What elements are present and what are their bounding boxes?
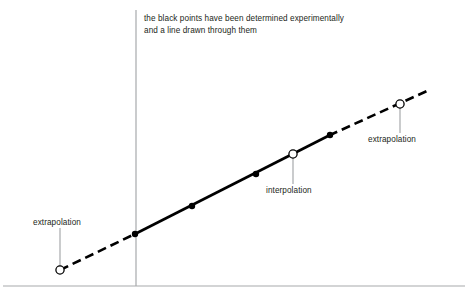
data-point-open-extrapolation-left xyxy=(56,266,64,274)
data-point-filled xyxy=(253,171,259,177)
trend-line-dashed-right xyxy=(329,91,427,136)
axes-group xyxy=(3,10,465,286)
data-point-filled xyxy=(132,231,138,237)
figure-caption: the black points have been determined ex… xyxy=(144,13,424,36)
figure-canvas: the black points have been determined ex… xyxy=(0,0,472,301)
data-point-filled xyxy=(327,132,333,138)
data-point-filled xyxy=(189,203,195,209)
annotation-interpolation: interpolation xyxy=(266,186,312,196)
data-point-open-interpolation xyxy=(289,150,297,158)
data-point-open-extrapolation-right xyxy=(396,100,404,108)
annotation-extrapolation-right: extrapolation xyxy=(368,135,416,145)
trend-line-dashed-left xyxy=(60,233,137,270)
trend-line-solid xyxy=(134,135,331,235)
caption-line-1: the black points have been determined ex… xyxy=(144,13,424,25)
trend-line-group xyxy=(60,91,427,270)
annotation-extrapolation-left: extrapolation xyxy=(33,218,81,228)
interpolation-extrapolation-diagram xyxy=(0,0,472,301)
caption-line-2: and a line drawn through them xyxy=(144,25,424,37)
